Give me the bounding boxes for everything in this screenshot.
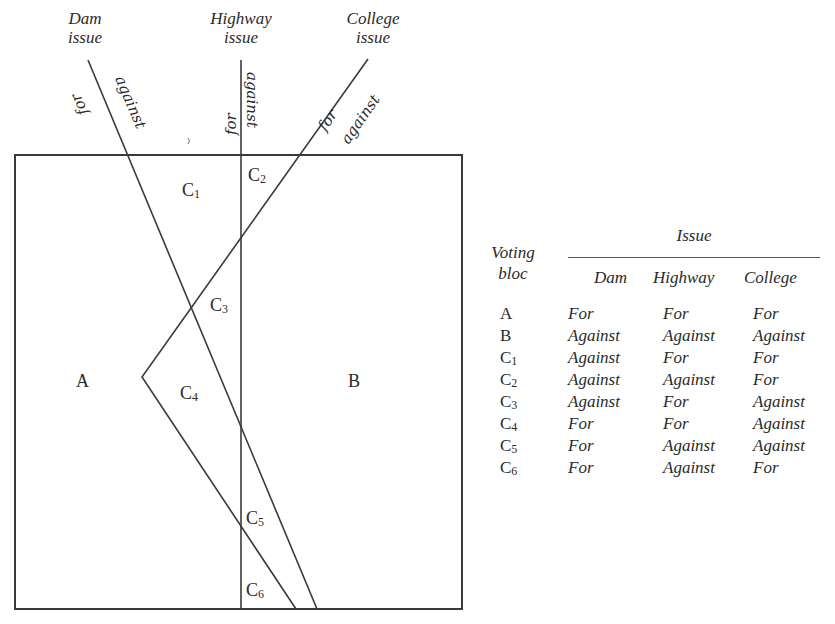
dam-cell: Against [568,370,620,390]
college-issue-title: College issue [328,9,418,47]
bloc-cell: A [500,304,512,325]
college-cell: For [753,348,779,368]
bloc-cell: C6 [500,458,517,479]
college-cell: For [753,458,779,478]
bloc-cell: C3 [500,392,517,413]
voting-bloc-table: Voting bloc Issue Dam Highway College A … [482,222,832,502]
col-header-dam: Dam [594,268,627,288]
highway-cell: Against [663,326,715,346]
highway-cell: For [663,392,689,412]
table-row: B Against Against Against [482,326,832,348]
college-title-line2: issue [328,28,418,47]
dam-cell: For [568,414,594,434]
table-row: C4 For For Against [482,414,832,436]
highway-cell: Against [663,458,715,478]
issue-header-rule [568,257,820,258]
dam-title-line2: issue [40,28,130,47]
region-a-label: A [76,371,89,392]
region-c4-label: C4 [180,383,198,405]
bloc-header-line2: bloc [482,263,544,284]
stray-mark [188,138,190,144]
voting-bloc-header: Voting bloc [482,242,544,284]
highway-title-line2: issue [196,28,286,47]
diagram-lines [0,0,480,624]
highway-cell: Against [663,436,715,456]
college-cell: Against [753,326,805,346]
highway-cell: Against [663,370,715,390]
col-header-college: College [744,268,797,288]
table-row: C2 Against Against For [482,370,832,392]
dam-issue-line [88,60,317,609]
bloc-cell: C1 [500,348,517,369]
col-header-highway: Highway [653,268,714,288]
highway-cell: For [663,348,689,368]
dam-cell: Against [568,348,620,368]
bloc-cell: B [500,326,511,347]
region-c2-label: C2 [248,165,266,187]
dam-title-line1: Dam [40,9,130,28]
region-c5-label: C5 [246,508,264,530]
dam-cell: For [568,458,594,478]
table-row: C5 For Against Against [482,436,832,458]
highway-issue-title: Highway issue [196,9,286,47]
dam-cell: For [568,304,594,324]
dam-cell: Against [568,392,620,412]
bloc-cell: C2 [500,370,517,391]
college-cell: Against [753,414,805,434]
college-cell: For [753,370,779,390]
dam-cell: Against [568,326,620,346]
highway-against-label: against [243,72,261,128]
region-c3-label: C3 [210,295,228,317]
highway-for-label: for [222,113,240,135]
highway-title-line1: Highway [196,9,286,28]
college-cell: For [753,304,779,324]
issue-space-diagram: Dam issue Highway issue College issue fo… [0,0,480,624]
highway-cell: For [663,414,689,434]
table-row: C6 For Against For [482,458,832,480]
college-title-line1: College [328,9,418,28]
dam-issue-title: Dam issue [40,9,130,47]
table-row: C1 Against For For [482,348,832,370]
highway-cell: For [663,304,689,324]
table-row: C3 Against For Against [482,392,832,414]
region-c1-label: C1 [182,180,200,202]
region-b-label: B [348,371,360,392]
college-cell: Against [753,436,805,456]
college-cell: Against [753,392,805,412]
table-row: A For For For [482,304,832,326]
bloc-cell: C4 [500,414,517,435]
bloc-header-line1: Voting [482,242,544,263]
dam-cell: For [568,436,594,456]
bloc-cell: C5 [500,436,517,457]
region-c6-label: C6 [246,580,264,602]
issue-header: Issue [568,226,820,246]
